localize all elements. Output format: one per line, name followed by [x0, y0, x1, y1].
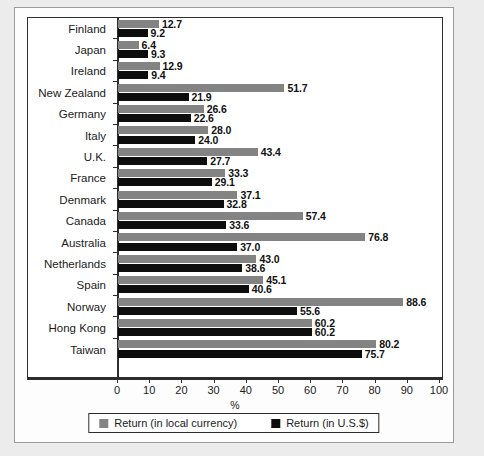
category-label: Germany — [28, 104, 112, 125]
bar-pair: 28.024.0 — [118, 125, 442, 146]
bar-local — [118, 41, 139, 49]
category-label: Japan — [28, 39, 112, 60]
bar-line: 88.6 — [118, 298, 442, 306]
bar-row: Spain45.140.6 — [28, 275, 442, 296]
bar-line: 38.6 — [118, 264, 442, 272]
bar-local — [118, 191, 237, 199]
bar-row: France33.329.1 — [28, 168, 442, 189]
bar-line: 45.1 — [118, 276, 442, 284]
category-label: Australia — [28, 232, 112, 253]
bar-pair: 57.433.6 — [118, 211, 442, 232]
bar-row: Hong Kong60.260.2 — [28, 317, 442, 338]
bar-value-label: 43.4 — [258, 146, 281, 158]
bar-value-label: 76.8 — [365, 231, 388, 243]
legend-item: Return (in local currency) — [99, 417, 237, 429]
bar-line: 43.0 — [118, 255, 442, 263]
bar-pair: 37.132.8 — [118, 189, 442, 210]
bar-usd — [118, 29, 148, 37]
bar-local — [118, 212, 303, 220]
bar-line: 28.0 — [118, 126, 442, 134]
bar-line: 9.4 — [118, 71, 442, 79]
legend-item: Return (in U.S.$) — [271, 417, 369, 429]
bar-row: Taiwan80.275.7 — [28, 339, 442, 360]
bar-value-label: 38.6 — [242, 262, 265, 274]
chart-legend: Return (in local currency)Return (in U.S… — [88, 413, 379, 433]
bar-value-label: 60.2 — [312, 326, 335, 338]
bar-pair: 12.79.2 — [118, 18, 442, 39]
bar-pair: 26.622.6 — [118, 104, 442, 125]
bar-value-label: 33.6 — [226, 219, 249, 231]
bar-row: New Zealand51.721.9 — [28, 82, 442, 103]
bar-value-label: 27.7 — [207, 155, 230, 167]
category-label: Norway — [28, 296, 112, 317]
bar-line: 12.9 — [118, 62, 442, 70]
x-tick-label: 60 — [304, 384, 316, 396]
bar-local — [118, 255, 256, 263]
x-axis: 0102030405060708090100 % — [27, 378, 443, 412]
bar-pair: 80.275.7 — [118, 339, 442, 360]
bar-usd — [118, 285, 249, 293]
bar-pair: 33.329.1 — [118, 168, 442, 189]
bar-line: 6.4 — [118, 41, 442, 49]
bar-row: Denmark37.132.8 — [28, 189, 442, 210]
bar-row: Finland12.79.2 — [28, 18, 442, 39]
bar-usd — [118, 243, 237, 251]
bar-line: 22.6 — [118, 114, 442, 122]
bar-row: Netherlands43.038.6 — [28, 253, 442, 274]
bar-value-label: 21.9 — [189, 91, 212, 103]
bar-value-label: 9.4 — [148, 69, 165, 81]
bar-line: 57.4 — [118, 212, 442, 220]
bar-value-label: 29.1 — [212, 176, 235, 188]
category-label: Spain — [28, 275, 112, 296]
x-tick — [439, 378, 440, 383]
x-tick-label: 10 — [143, 384, 155, 396]
bar-usd — [118, 114, 191, 122]
category-label: Canada — [28, 211, 112, 232]
bar-line: 12.7 — [118, 20, 442, 28]
bar-pair: 51.721.9 — [118, 82, 442, 103]
bar-line: 37.1 — [118, 191, 442, 199]
x-tick-label: 20 — [175, 384, 187, 396]
bar-line: 32.8 — [118, 200, 442, 208]
bar-line: 43.4 — [118, 148, 442, 156]
bar-usd — [118, 71, 148, 79]
category-label: U.K. — [28, 146, 112, 167]
bar-row: Norway88.655.6 — [28, 296, 442, 317]
bar-pair: 60.260.2 — [118, 317, 442, 338]
bar-local — [118, 340, 376, 348]
x-tick-label: 0 — [114, 384, 120, 396]
legend-label: Return (in U.S.$) — [286, 417, 369, 429]
category-label: Ireland — [28, 61, 112, 82]
bar-usd — [118, 178, 212, 186]
bar-line: 33.3 — [118, 169, 442, 177]
x-tick — [214, 378, 215, 383]
bar-usd — [118, 264, 242, 272]
bar-line: 9.3 — [118, 50, 442, 58]
x-tick — [181, 378, 182, 383]
legend-swatch-icon — [271, 419, 280, 428]
bar-pair: 43.038.6 — [118, 253, 442, 274]
bar-usd — [118, 328, 312, 336]
bar-local — [118, 319, 312, 327]
bar-value-label: 9.3 — [148, 48, 165, 60]
x-tick-label: 50 — [272, 384, 284, 396]
x-tick — [149, 378, 150, 383]
bar-line: 24.0 — [118, 136, 442, 144]
bar-line: 76.8 — [118, 233, 442, 241]
bar-value-label: 57.4 — [303, 210, 326, 222]
bar-value-label: 24.0 — [195, 134, 218, 146]
bar-row: Australia76.837.0 — [28, 232, 442, 253]
legend-label: Return (in local currency) — [114, 417, 237, 429]
bar-value-label: 51.7 — [284, 82, 307, 94]
bar-line: 9.2 — [118, 29, 442, 37]
bar-line: 75.7 — [118, 350, 442, 358]
bar-value-label: 22.6 — [191, 112, 214, 124]
bar-line: 27.7 — [118, 157, 442, 165]
bar-value-label: 37.0 — [237, 241, 260, 253]
bar-row: Ireland12.99.4 — [28, 61, 442, 82]
bar-line: 60.2 — [118, 328, 442, 336]
bar-pair: 43.427.7 — [118, 146, 442, 167]
bar-line: 51.7 — [118, 84, 442, 92]
bar-usd — [118, 350, 362, 358]
category-label: Taiwan — [28, 339, 112, 360]
